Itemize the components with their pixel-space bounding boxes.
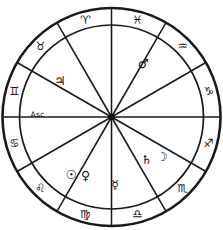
- sign-glyph-scorpio: ♏: [177, 181, 187, 195]
- sign-glyph-libra: ♎: [132, 207, 142, 221]
- planet-glyph-sun: ☉: [66, 167, 77, 182]
- chart-point-group: Asc: [31, 110, 45, 119]
- sign-glyph-cancer: ♋: [9, 136, 19, 150]
- sign-divider-libra: [158, 197, 167, 212]
- planet-glyph-venus: ♀: [81, 168, 90, 183]
- sign-glyph-aries: ♈: [80, 13, 91, 27]
- sign-divider-capricorn: [191, 63, 206, 72]
- planet-glyph-saturn: ♄: [141, 152, 152, 167]
- sign-glyph-taurus: ♉: [35, 39, 45, 53]
- sign-divider-aquarius: [158, 23, 167, 38]
- center-point: [108, 114, 114, 120]
- chart-point-ascendant: Asc: [31, 110, 45, 119]
- planet-glyph-jupiter: ♃: [54, 73, 65, 88]
- house-cusp-9: [66, 37, 112, 117]
- sign-glyph-sagittarius: ♐: [203, 136, 213, 150]
- sign-divider-taurus: [17, 63, 32, 72]
- sign-glyph-leo: ♌: [35, 181, 45, 195]
- wheel-center-hub: [108, 114, 114, 120]
- house-cusp-12: [112, 71, 192, 117]
- sign-divider-cancer: [17, 163, 32, 172]
- house-cusp-11: [112, 37, 158, 117]
- sign-glyph-gemini: ♊: [9, 84, 19, 98]
- sign-divider-aries: [57, 23, 66, 38]
- planet-glyph-mars: ♂: [138, 56, 149, 71]
- sign-glyph-capricorn: ♑: [203, 84, 213, 98]
- house-cusp-5: [66, 117, 112, 197]
- sign-glyph-aquarius: ♒: [177, 39, 187, 53]
- sign-glyph-virgo: ♍: [80, 207, 90, 221]
- house-cusp-6: [32, 117, 112, 163]
- sign-glyph-pisces: ♓: [132, 13, 142, 27]
- zodiac-wheel-diagram: ♓♒♑♐♏♎♍♌♋♊♉♈ ♂☽♄☿♀☉♃ Asc: [0, 0, 223, 230]
- zodiac-wheel-svg: ♓♒♑♐♏♎♍♌♋♊♉♈ ♂☽♄☿♀☉♃ Asc: [0, 0, 223, 230]
- planet-glyph-mercury: ☿: [111, 177, 119, 192]
- planet-glyph-moon: ☽: [156, 149, 167, 164]
- sign-divider-leo: [57, 197, 66, 212]
- sign-divider-scorpio: [191, 163, 206, 172]
